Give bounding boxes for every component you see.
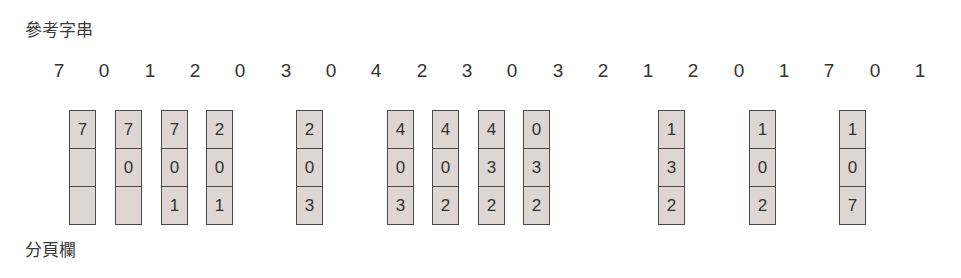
frame-cell: 7 xyxy=(70,111,95,149)
frame-cell: 1 xyxy=(207,187,232,224)
frame-cell: 3 xyxy=(659,149,684,187)
reference-number: 7 xyxy=(44,60,74,82)
reference-number: 2 xyxy=(588,60,618,82)
reference-number: 0 xyxy=(316,60,346,82)
frame-cell: 0 xyxy=(116,149,141,187)
reference-number: 0 xyxy=(89,60,119,82)
frame-column: 032 xyxy=(523,110,550,225)
frame-cell: 2 xyxy=(433,187,458,224)
frame-cell: 2 xyxy=(524,187,549,224)
frame-cell: 3 xyxy=(297,187,322,224)
frame-cell: 2 xyxy=(297,111,322,149)
reference-string-label: 參考字串 xyxy=(25,16,93,41)
frame-cell: 3 xyxy=(524,149,549,187)
frame-cell: 0 xyxy=(433,149,458,187)
frame-cell xyxy=(116,187,141,224)
frame-cell: 2 xyxy=(207,111,232,149)
frame-column: 7 xyxy=(69,110,96,225)
frame-column: 102 xyxy=(749,110,776,225)
frame-cell xyxy=(70,149,95,187)
reference-number: 3 xyxy=(271,60,301,82)
frame-column: 701 xyxy=(161,110,188,225)
frame-column: 432 xyxy=(478,110,505,225)
reference-number: 2 xyxy=(678,60,708,82)
reference-number: 7 xyxy=(814,60,844,82)
frame-cell: 2 xyxy=(479,187,504,224)
frame-column: 70 xyxy=(115,110,142,225)
frame-column: 403 xyxy=(387,110,414,225)
frame-cell: 2 xyxy=(750,187,775,224)
frame-cell: 4 xyxy=(479,111,504,149)
reference-number: 2 xyxy=(407,60,437,82)
frame-cell xyxy=(70,187,95,224)
frame-column: 107 xyxy=(839,110,866,225)
frame-cell: 0 xyxy=(524,111,549,149)
reference-number: 0 xyxy=(724,60,754,82)
frame-cell: 1 xyxy=(750,111,775,149)
frame-cell: 7 xyxy=(116,111,141,149)
frame-cell: 0 xyxy=(207,149,232,187)
frame-cell: 4 xyxy=(388,111,413,149)
reference-number: 1 xyxy=(633,60,663,82)
reference-number: 0 xyxy=(497,60,527,82)
reference-number: 1 xyxy=(769,60,799,82)
frame-cell: 0 xyxy=(388,149,413,187)
reference-number: 3 xyxy=(543,60,573,82)
frame-cell: 1 xyxy=(162,187,187,224)
frame-cell: 7 xyxy=(840,187,865,224)
reference-number: 3 xyxy=(452,60,482,82)
reference-number: 1 xyxy=(135,60,165,82)
frame-column: 402 xyxy=(432,110,459,225)
frame-cell: 3 xyxy=(388,187,413,224)
frame-cell: 2 xyxy=(659,187,684,224)
reference-number: 1 xyxy=(905,60,935,82)
reference-number: 4 xyxy=(361,60,391,82)
frame-cell: 1 xyxy=(659,111,684,149)
frame-cell: 0 xyxy=(840,149,865,187)
frame-column: 201 xyxy=(206,110,233,225)
reference-number: 2 xyxy=(180,60,210,82)
frame-column: 203 xyxy=(296,110,323,225)
frame-cell: 0 xyxy=(297,149,322,187)
frame-cell: 0 xyxy=(750,149,775,187)
reference-number: 0 xyxy=(860,60,890,82)
frame-cell: 7 xyxy=(162,111,187,149)
frame-cell: 0 xyxy=(162,149,187,187)
frame-cell: 1 xyxy=(840,111,865,149)
frame-cell: 4 xyxy=(433,111,458,149)
frame-column: 132 xyxy=(658,110,685,225)
frame-cell: 3 xyxy=(479,149,504,187)
page-frames-label: 分頁欄 xyxy=(25,236,76,261)
reference-number: 0 xyxy=(225,60,255,82)
